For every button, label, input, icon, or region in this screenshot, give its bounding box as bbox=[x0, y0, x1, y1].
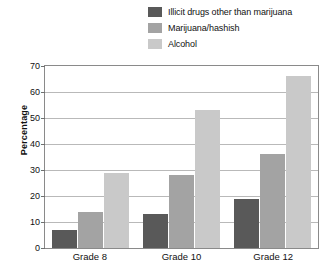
y-axis-title: Percentage bbox=[19, 85, 29, 175]
y-tick-label: 60 bbox=[30, 87, 40, 97]
y-tick-label: 30 bbox=[30, 165, 40, 175]
bar bbox=[169, 175, 194, 248]
plot-area: 706050403020100 bbox=[44, 65, 319, 249]
bar-group bbox=[136, 66, 227, 248]
legend-swatch-icon-illicit-drugs bbox=[148, 7, 162, 17]
bar bbox=[52, 230, 77, 248]
bar-chart-figure: Illicit drugs other than marijuana Marij… bbox=[0, 0, 329, 276]
legend-item-marijuana-hashish: Marijuana/hashish bbox=[148, 20, 328, 35]
y-tick-label: 70 bbox=[30, 61, 40, 71]
x-axis-labels: Grade 8Grade 10Grade 12 bbox=[44, 251, 319, 262]
bar bbox=[143, 214, 168, 248]
legend-label-illicit-drugs: Illicit drugs other than marijuana bbox=[168, 7, 292, 17]
x-axis-label: Grade 8 bbox=[44, 251, 136, 262]
bar bbox=[195, 110, 220, 248]
bar bbox=[78, 212, 103, 248]
y-tick-label: 40 bbox=[30, 139, 40, 149]
legend-item-alcohol: Alcohol bbox=[148, 36, 328, 51]
bar bbox=[260, 154, 285, 248]
y-tick-mark bbox=[41, 248, 45, 249]
bar bbox=[104, 173, 129, 248]
y-tick-label: 0 bbox=[35, 243, 40, 253]
legend-swatch-icon-alcohol bbox=[148, 39, 162, 49]
x-axis-label: Grade 10 bbox=[136, 251, 228, 262]
legend-label-marijuana-hashish: Marijuana/hashish bbox=[168, 23, 239, 33]
y-tick-label: 20 bbox=[30, 191, 40, 201]
chart-legend: Illicit drugs other than marijuana Marij… bbox=[148, 4, 328, 52]
legend-label-alcohol: Alcohol bbox=[168, 39, 197, 49]
legend-swatch-icon-marijuana-hashish bbox=[148, 23, 162, 33]
bar bbox=[286, 76, 311, 248]
bar-group bbox=[45, 66, 136, 248]
y-tick-label: 10 bbox=[30, 217, 40, 227]
legend-item-illicit-drugs: Illicit drugs other than marijuana bbox=[148, 4, 328, 19]
bar bbox=[234, 199, 259, 248]
x-axis-label: Grade 12 bbox=[227, 251, 319, 262]
y-tick-label: 50 bbox=[30, 113, 40, 123]
bar-group bbox=[227, 66, 318, 248]
bars-layer bbox=[45, 66, 318, 248]
